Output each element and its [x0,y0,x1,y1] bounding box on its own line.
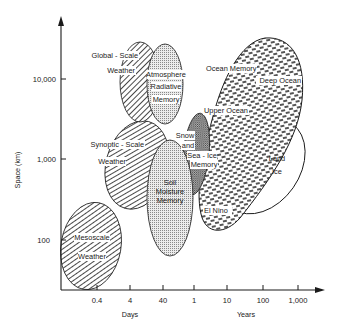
x-tick-label: 1 [192,296,196,305]
x-axis-years-label: Years [237,310,256,319]
svg-text:Memory: Memory [157,196,184,205]
svg-text:Ocean Memory: Ocean Memory [206,64,257,73]
y-tick-label: 100 [37,236,50,245]
svg-text:Memory: Memory [153,95,180,104]
svg-text:Weather: Weather [107,66,135,75]
mesoscale-weather-region [54,197,128,294]
svg-text:Soil: Soil [164,178,177,187]
x-tick-label: 1,000 [288,296,307,305]
svg-text:and: and [182,141,194,150]
x-ticks [97,285,298,290]
svg-text:Moisture: Moisture [156,187,184,196]
label-atmosphere: Atmosphere Radiative Memory [146,70,186,104]
svg-text:Global - Scale: Global - Scale [92,51,138,60]
svg-text:Upper Ocean: Upper Ocean [204,106,248,115]
x-axis-days-label: Days [122,310,139,319]
svg-text:Mesoscale: Mesoscale [74,233,109,242]
svg-text:Synoptic - Scale: Synoptic - Scale [91,140,144,149]
x-axis-arrow-icon [315,287,325,293]
svg-text:Ice: Ice [272,167,282,176]
svg-text:Weather: Weather [98,157,126,166]
x-tick-label: 4 [128,296,132,305]
svg-text:Memory: Memory [191,160,218,169]
svg-text:El Nino: El Nino [204,206,228,215]
diagram-svg: 10,000 1,000 100 Space (km) 0.4 4 40 1 1… [0,0,338,333]
svg-text:Land: Land [269,154,285,163]
x-tick-label: 0.4 [92,296,103,305]
y-axis-title: Space (km) [13,152,22,189]
svg-text:Radiative: Radiative [151,82,182,91]
svg-text:Deep Ocean: Deep Ocean [260,76,302,85]
y-tick-label: 10,000 [33,75,56,84]
x-tick-label: 40 [159,296,167,305]
svg-text:Sea - Ice: Sea - Ice [187,151,217,160]
y-axis-arrow-icon [58,16,64,26]
x-tick-label: 100 [257,296,270,305]
svg-text:Snow: Snow [176,131,195,140]
svg-text:Weather: Weather [78,252,106,261]
svg-text:Atmosphere: Atmosphere [146,70,186,79]
climate-scales-diagram: 10,000 1,000 100 Space (km) 0.4 4 40 1 1… [0,0,338,333]
x-tick-label: 10 [223,296,231,305]
y-tick-label: 1,000 [37,155,56,164]
